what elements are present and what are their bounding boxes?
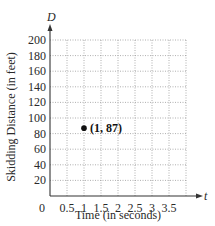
- y-axis-variable: D: [46, 10, 56, 24]
- y-axis-label: Skidding Distance (in feet): [4, 52, 18, 182]
- data-point-label: (1, 87): [90, 121, 122, 135]
- y-tick-label: 60: [34, 142, 46, 156]
- x-axis-variable: t: [204, 189, 208, 203]
- y-tick-label: 140: [28, 80, 46, 94]
- y-axis-arrow-icon: [48, 24, 53, 31]
- axes: [48, 24, 204, 199]
- y-tick-label: 80: [34, 127, 46, 141]
- y-tick-label: 120: [28, 95, 46, 109]
- x-tick-label: 0: [39, 201, 45, 215]
- y-tick-labels: 20406080100120140160180200: [28, 33, 46, 187]
- y-tick-label: 100: [28, 111, 46, 125]
- x-axis-arrow-icon: [196, 194, 203, 199]
- y-tick-label: 20: [34, 173, 46, 187]
- data-points: (1, 87): [81, 121, 122, 135]
- x-axis-label: Time (in seconds): [75, 208, 161, 222]
- x-tick-label: 3.5: [162, 201, 177, 215]
- y-tick-label: 180: [28, 49, 46, 63]
- y-tick-label: 160: [28, 64, 46, 78]
- chart: 20406080100120140160180200 00.511.522.53…: [0, 0, 215, 226]
- grid-lines: [50, 40, 186, 196]
- y-tick-label: 200: [28, 33, 46, 47]
- y-tick-label: 40: [34, 158, 46, 172]
- x-tick-label: 0.5: [60, 201, 75, 215]
- data-point-marker: [81, 125, 87, 131]
